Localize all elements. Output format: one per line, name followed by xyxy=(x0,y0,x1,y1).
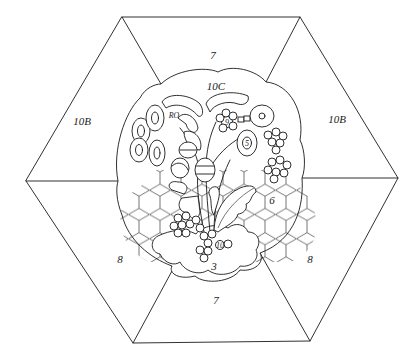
label-honeycomb: 6 xyxy=(269,194,275,206)
label-upper-left: 10B xyxy=(73,115,91,127)
label-leaf-left: RO xyxy=(168,111,180,120)
label-lower-left: 8 xyxy=(117,253,123,265)
label-flower-top: 9 xyxy=(225,118,229,127)
quilt-pattern-diagram: 7 7 10B 10B 8 8 10C RO 9 5 6 3 10 xyxy=(0,0,418,362)
label-bottom-trapezoid: 7 xyxy=(213,294,219,306)
label-top-trapezoid: 7 xyxy=(210,49,216,61)
label-upper-right: 10B xyxy=(328,113,346,125)
label-lower-right: 8 xyxy=(307,253,313,265)
label-medallion-top: 10C xyxy=(207,80,226,92)
label-cloud-bottom: 3 xyxy=(210,260,217,272)
label-flower-right: 5 xyxy=(245,139,249,148)
label-small-flower: 10 xyxy=(216,241,224,250)
